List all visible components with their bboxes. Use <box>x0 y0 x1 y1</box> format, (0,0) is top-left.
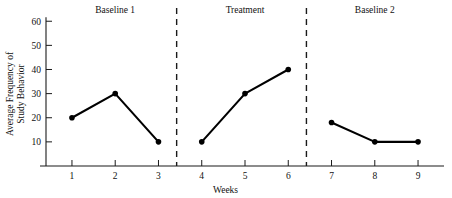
y-axis-title-line-2: Study Behavior <box>16 63 26 123</box>
x-axis-tick-label: 3 <box>156 171 161 181</box>
y-axis-title-line-1: Average Frequency of <box>5 51 15 136</box>
chart-figure: 102030405060123456789Baseline 1Treatment… <box>0 0 452 198</box>
data-point <box>69 115 75 121</box>
data-point <box>415 139 421 145</box>
data-point <box>112 91 118 97</box>
x-axis-tick-label: 5 <box>243 171 248 181</box>
y-axis-tick-label: 30 <box>32 89 42 99</box>
x-axis-tick-label: 6 <box>286 171 291 181</box>
data-point <box>199 139 205 145</box>
data-point <box>156 139 162 145</box>
data-point <box>285 67 291 73</box>
x-axis-tick-label: 2 <box>113 171 118 181</box>
y-axis-tick-label: 10 <box>32 137 42 147</box>
data-point <box>242 91 248 97</box>
study-behavior-line-chart: 102030405060123456789Baseline 1Treatment… <box>0 0 452 198</box>
y-axis-tick-label: 40 <box>32 65 42 75</box>
series-line-baseline-2 <box>332 123 419 142</box>
series-line-treatment <box>202 69 289 141</box>
phase-label: Baseline 2 <box>355 5 395 15</box>
phase-label: Baseline 1 <box>95 5 135 15</box>
x-axis-tick-label: 4 <box>199 171 204 181</box>
y-axis-tick-label: 20 <box>32 113 42 123</box>
y-axis-tick-label: 60 <box>32 17 42 27</box>
data-point <box>372 139 378 145</box>
x-axis-tick-label: 9 <box>416 171 421 181</box>
x-axis-tick-label: 8 <box>372 171 377 181</box>
x-axis-tick-label: 1 <box>70 171 75 181</box>
series-line-baseline-1 <box>72 94 159 142</box>
phase-label: Treatment <box>226 5 265 15</box>
data-point <box>329 120 335 126</box>
y-axis-tick-label: 50 <box>32 41 42 51</box>
x-axis-title: Weeks <box>213 185 238 195</box>
x-axis-tick-label: 7 <box>329 171 334 181</box>
